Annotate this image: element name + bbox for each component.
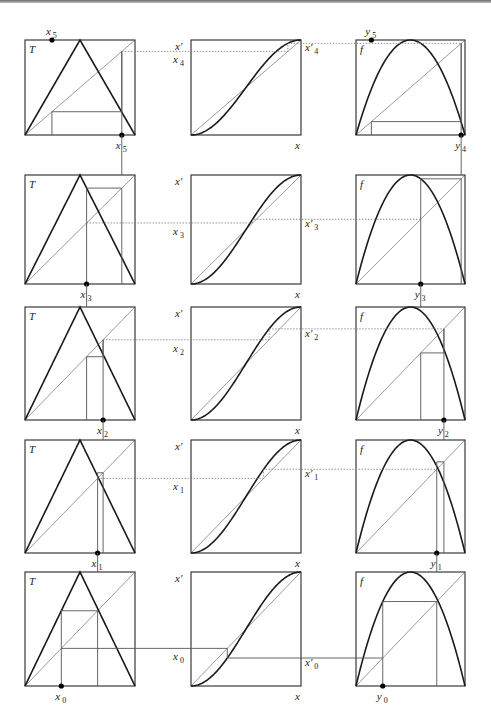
- left-diagonal: [25, 572, 135, 686]
- diagram-row-2: Tfx'xx1x'1x1y1: [25, 420, 465, 572]
- orbit-point-y: [380, 683, 385, 688]
- tent-cobweb-step: [87, 188, 122, 284]
- logistic-map-label: f: [360, 310, 365, 322]
- x-axis-label: x: [294, 424, 300, 436]
- xprime-axis-label: x': [174, 440, 183, 452]
- conjugacy-connector: [103, 329, 444, 340]
- diagram-row-5: Tfx'xx4x'4x5y4x5y5: [25, 25, 466, 154]
- logistic-map-label: f: [360, 178, 365, 190]
- conjugacy-connector: [87, 219, 421, 223]
- conjugacy-connector: [122, 43, 461, 51]
- xprime-axis-label: x': [174, 40, 183, 52]
- tent-map-label: T: [29, 43, 36, 55]
- xprime-index-label: x'2: [304, 327, 318, 342]
- xprime-index-label: x'1: [304, 467, 318, 482]
- orbit-point-y-label: y0: [376, 690, 388, 705]
- tent-cobweb-step: [87, 340, 104, 420]
- conjugacy-connector: [61, 648, 382, 658]
- x-index-label: x4: [172, 53, 184, 68]
- orbit-point-x-label: x5: [115, 139, 127, 154]
- tent-map-label: T: [29, 310, 36, 322]
- conjugacy-connector: [98, 469, 437, 478]
- xprime-axis-label: x': [174, 307, 183, 319]
- tent-map-label: T: [29, 178, 36, 190]
- logistic-cobweb-step: [383, 602, 437, 686]
- logistic-cobweb-step: [371, 43, 461, 135]
- x-index-label: x3: [172, 225, 184, 240]
- orbit-point-x-label: x3: [80, 288, 92, 303]
- tent-map-label: T: [29, 443, 36, 455]
- x-index-label: x2: [172, 342, 184, 357]
- orbit-point-y-label: y4: [454, 139, 466, 154]
- orbit-point-x-label: x1: [91, 557, 103, 572]
- logistic-map-label: f: [360, 443, 365, 455]
- x-axis-label: x: [294, 288, 300, 300]
- logistic-map-label: f: [360, 575, 365, 587]
- orbit-point-y-label: y1: [430, 557, 442, 572]
- diagram-row-1: Tfx'xx0x'0x0y0: [25, 553, 465, 705]
- orbit-point-x: [59, 683, 64, 688]
- xprime-axis-label: x': [174, 175, 183, 187]
- diagram-row-4: Tfx'xx3x'3x3y3: [25, 135, 465, 303]
- x-axis-label: x: [294, 139, 300, 151]
- x-axis-label: x: [294, 690, 300, 702]
- orbit-point-y-label: y3: [414, 288, 426, 303]
- conjugacy-diagram: Tfx'xx4x'4x5y4x5y5Tfx'xx3x'3x3y3Tfx'xx2x…: [0, 0, 491, 721]
- x-axis-label: x: [294, 557, 300, 569]
- left-diagonal: [25, 40, 135, 135]
- left-diagonal: [25, 307, 135, 420]
- left-diagonal: [25, 440, 135, 553]
- xprime-index-label: x'3: [304, 217, 318, 232]
- orbit-point-y-label: y2: [437, 424, 449, 439]
- xprime-axis-label: x': [174, 572, 183, 584]
- diagram-row-3: Tfx'xx2x'2x2y2: [25, 284, 465, 439]
- orbit-point-x-label: x0: [54, 690, 66, 705]
- x-index-label: x0: [172, 650, 184, 665]
- x-index-label: x1: [172, 480, 184, 495]
- left-diagonal: [25, 175, 135, 284]
- logistic-cobweb-step: [421, 179, 461, 284]
- logistic-map-label: f: [360, 43, 365, 55]
- tent-map-label: T: [29, 575, 36, 587]
- orbit-point-x-label: x2: [96, 424, 108, 439]
